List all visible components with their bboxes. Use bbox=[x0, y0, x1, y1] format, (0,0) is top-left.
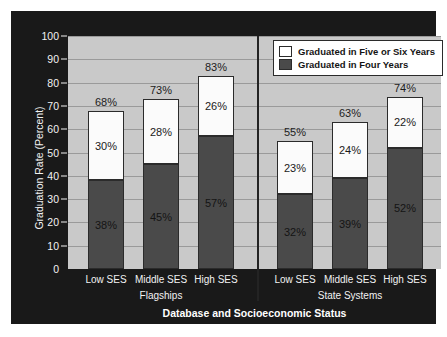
bar-segment-label-four-years: 39% bbox=[332, 218, 368, 230]
y-axis-tick-label: 40 bbox=[29, 170, 59, 182]
stacked-bar: 39%24%63% bbox=[332, 122, 368, 269]
bar-segment-label-five-or-six-years: 30% bbox=[88, 140, 124, 152]
legend-item-four-years: Graduated in Four Years bbox=[279, 58, 435, 71]
y-axis-tick-label: 30 bbox=[29, 193, 59, 205]
stacked-bar: 38%30%68% bbox=[88, 111, 124, 269]
bar-segment-label-four-years: 52% bbox=[387, 202, 423, 214]
legend-swatch-five-or-six-years bbox=[279, 46, 292, 57]
y-axis-tick-mark bbox=[61, 82, 67, 83]
x-axis-tick-label: Middle SES bbox=[324, 274, 376, 285]
bar-segment-label-five-or-six-years: 28% bbox=[143, 126, 179, 138]
y-axis-tick-mark bbox=[61, 199, 67, 200]
legend-label-five-or-six-years: Graduated in Five or Six Years bbox=[298, 46, 435, 57]
y-axis-tick-label: 20 bbox=[29, 216, 59, 228]
x-axis-group-label: Flagships bbox=[140, 290, 183, 301]
stacked-bar: 45%28%73% bbox=[143, 99, 179, 269]
legend-swatch-four-years bbox=[279, 59, 292, 70]
chart-figure: Graduation Rate (Percent) 01020304050607… bbox=[0, 0, 447, 337]
x-axis-tick-label: High SES bbox=[383, 274, 426, 285]
y-axis-tick-label: 10 bbox=[29, 240, 59, 252]
chart-legend: Graduated in Five or Six Years Graduated… bbox=[273, 40, 443, 76]
chart-panel: Graduation Rate (Percent) 01020304050607… bbox=[11, 11, 436, 324]
bar-segment-label-four-years: 57% bbox=[198, 197, 234, 209]
y-axis-tick-mark bbox=[61, 175, 67, 176]
legend-label-four-years: Graduated in Four Years bbox=[298, 59, 408, 70]
stacked-bar: 57%26%83% bbox=[198, 76, 234, 269]
y-axis-tick-label: 90 bbox=[29, 53, 59, 65]
y-axis-tick-mark bbox=[61, 129, 67, 130]
x-axis-tick-label: High SES bbox=[194, 274, 237, 285]
y-axis-tick-mark bbox=[61, 245, 67, 246]
bar-segment-label-five-or-six-years: 24% bbox=[332, 144, 368, 156]
x-axis-tick-label: Low SES bbox=[85, 274, 126, 285]
y-axis-tick-label: 80 bbox=[29, 77, 59, 89]
bar-segment-label-four-years: 45% bbox=[143, 211, 179, 223]
y-axis-tick-label: 100 bbox=[29, 30, 59, 42]
bar-segment-label-five-or-six-years: 22% bbox=[387, 116, 423, 128]
y-axis-tick-label: 70 bbox=[29, 100, 59, 112]
y-axis-tick-mark bbox=[61, 59, 67, 60]
stacked-bar: 52%22%74% bbox=[387, 97, 423, 269]
x-axis-tick-label: Low SES bbox=[274, 274, 315, 285]
x-axis-title: Database and Socioeconomic Status bbox=[68, 307, 441, 319]
y-axis-tick-mark bbox=[61, 152, 67, 153]
x-axis-group-label: State Systems bbox=[318, 290, 382, 301]
group-divider-lower bbox=[257, 269, 259, 301]
bar-total-label: 74% bbox=[381, 82, 429, 94]
y-axis-tick-mark bbox=[61, 36, 67, 37]
y-axis-tick-label: 50 bbox=[29, 147, 59, 159]
bar-segment-label-four-years: 38% bbox=[88, 219, 124, 231]
bar-total-label: 63% bbox=[326, 107, 374, 119]
bar-segment-label-five-or-six-years: 23% bbox=[277, 162, 313, 174]
bar-segment-label-five-or-six-years: 26% bbox=[198, 100, 234, 112]
bar-total-label: 83% bbox=[192, 61, 240, 73]
y-axis-tick-label: 60 bbox=[29, 123, 59, 135]
y-axis-tick-mark bbox=[61, 105, 67, 106]
bar-total-label: 55% bbox=[271, 126, 319, 138]
gridline bbox=[68, 36, 441, 37]
bar-total-label: 68% bbox=[82, 96, 130, 108]
group-divider bbox=[257, 36, 259, 269]
stacked-bar: 32%23%55% bbox=[277, 141, 313, 269]
legend-item-five-or-six-years: Graduated in Five or Six Years bbox=[279, 45, 435, 58]
bar-total-label: 73% bbox=[137, 84, 185, 96]
y-axis-tick-mark bbox=[61, 222, 67, 223]
y-axis-tick-label: 0 bbox=[29, 263, 59, 275]
x-axis-tick-label: Middle SES bbox=[135, 274, 187, 285]
bar-segment-label-four-years: 32% bbox=[277, 226, 313, 238]
